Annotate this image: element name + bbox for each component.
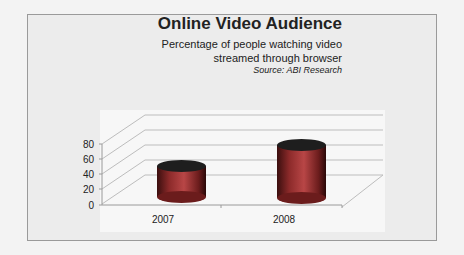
y-tick-80: 80	[83, 139, 95, 150]
plot-backdrop	[100, 110, 385, 232]
y-axis-labels: 80 60 40 20 0	[83, 139, 95, 211]
y-tick-60: 60	[83, 154, 95, 165]
x-label-2008: 2008	[273, 214, 296, 225]
plot-area: 80 60 40 20 0 2007 2008	[0, 0, 464, 255]
y-tick-0: 0	[88, 200, 94, 211]
x-label-2007: 2007	[152, 214, 175, 225]
bar-2007	[157, 160, 206, 203]
y-tick-20: 20	[83, 184, 95, 195]
bar-2008	[277, 139, 326, 204]
y-tick-40: 40	[83, 169, 95, 180]
